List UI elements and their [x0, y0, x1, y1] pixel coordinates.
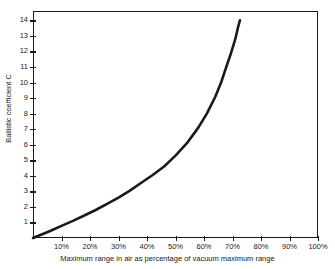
y-axis-tick-label: 12	[14, 45, 28, 56]
x-axis-tick-label: 70%	[217, 242, 249, 251]
x-axis-tick-mark	[318, 236, 319, 241]
y-axis-tick-label: 4	[14, 170, 28, 181]
y-axis-title: Ballistic coefficient C	[4, 54, 13, 164]
y-axis-tick-label: 11	[14, 61, 28, 72]
x-axis-tick-label: 100%	[302, 242, 334, 251]
ballistic-coefficient-curve	[33, 20, 240, 238]
x-axis-tick-label: 80%	[245, 242, 277, 251]
x-axis-tick-label: 40%	[131, 242, 163, 251]
x-axis-title: Maximum range in air as percentage of va…	[0, 254, 335, 263]
y-axis-tick-label: 8	[14, 108, 28, 119]
x-axis-tick-label: 90%	[274, 242, 306, 251]
y-axis-tick-label: 9	[14, 92, 28, 103]
y-axis-tick-label: 14	[14, 14, 28, 25]
chart-screenshot: 1234567891011121314 10%20%30%40%50%60%70…	[0, 0, 335, 269]
chart-plot-area	[33, 11, 318, 238]
x-axis-tick-label: 60%	[188, 242, 220, 251]
x-axis-tick-label: 20%	[74, 242, 106, 251]
y-axis-tick-label: 3	[14, 185, 28, 196]
y-axis-tick-label: 5	[14, 154, 28, 165]
y-axis-tick-label: 13	[14, 30, 28, 41]
x-axis-tick-label: 30%	[103, 242, 135, 251]
y-axis-tick-label: 10	[14, 77, 28, 88]
y-axis-tick-label: 7	[14, 123, 28, 134]
x-axis-tick-label: 10%	[46, 242, 78, 251]
y-axis-tick-label: 6	[14, 139, 28, 150]
y-axis-tick-label: 1	[14, 216, 28, 227]
y-axis-tick-label: 2	[14, 201, 28, 212]
x-axis-tick-label: 50%	[160, 242, 192, 251]
